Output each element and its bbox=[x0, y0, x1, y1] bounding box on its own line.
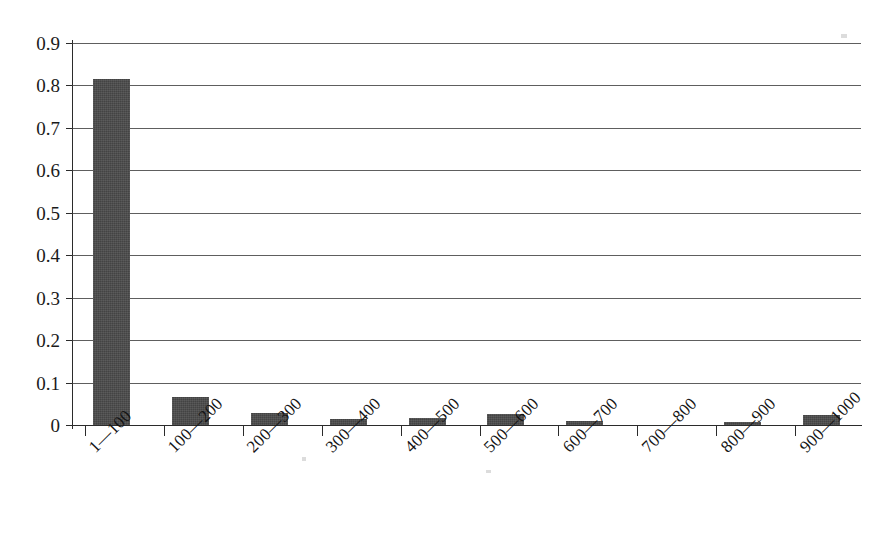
y-tick-label: 0.7 bbox=[36, 118, 60, 137]
x-tick-mark bbox=[164, 426, 165, 436]
x-tick-mark bbox=[558, 426, 559, 436]
x-tick-mark bbox=[85, 426, 86, 436]
y-tick-mark bbox=[66, 425, 73, 426]
gridline bbox=[72, 170, 861, 171]
scan-speck bbox=[841, 34, 847, 38]
y-tick-label: 0.6 bbox=[36, 161, 60, 180]
x-tick-mark bbox=[401, 426, 402, 436]
x-tick-mark bbox=[480, 426, 481, 436]
scan-speck bbox=[302, 457, 306, 461]
y-tick-label: 0.4 bbox=[36, 246, 60, 265]
y-tick-label: 0.9 bbox=[36, 34, 60, 53]
x-tick-mark bbox=[322, 426, 323, 436]
bar-chart: 00.10.20.30.40.50.60.70.80.9 1—100100—20… bbox=[0, 0, 885, 548]
y-tick-label: 0.2 bbox=[36, 331, 60, 350]
x-tick-mark bbox=[716, 426, 717, 436]
x-tick-mark bbox=[637, 426, 638, 436]
scan-speck bbox=[486, 470, 491, 473]
y-tick-label: 0.1 bbox=[36, 373, 60, 392]
gridline bbox=[72, 43, 861, 44]
x-tick-mark bbox=[795, 426, 796, 436]
gridline bbox=[72, 383, 861, 384]
y-tick-label: 0 bbox=[51, 416, 61, 435]
gridline bbox=[72, 213, 861, 214]
y-tick-label: 0.3 bbox=[36, 288, 60, 307]
plot-area bbox=[72, 43, 861, 425]
x-tick-mark bbox=[243, 426, 244, 436]
gridline bbox=[72, 340, 861, 341]
gridline bbox=[72, 298, 861, 299]
gridline bbox=[72, 128, 861, 129]
gridline bbox=[72, 85, 861, 86]
bar bbox=[93, 79, 130, 425]
y-tick-label: 0.5 bbox=[36, 203, 60, 222]
y-tick-label: 0.8 bbox=[36, 76, 60, 95]
gridline bbox=[72, 255, 861, 256]
